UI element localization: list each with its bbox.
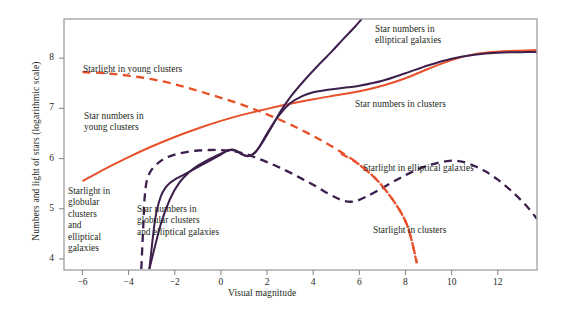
annotation-star-numbers-clusters: Star numbers in clusters [355,99,446,110]
x-tick-label: −4 [115,277,143,287]
y-axis-ticks [59,58,64,259]
x-tick-label: −6 [68,277,96,287]
y-tick-label: 5 [34,203,54,213]
y-tick-label: 6 [34,153,54,163]
annotation-starlight-elliptical-galaxies: Starlight in elliptical galaxies [363,163,474,174]
x-tick-label: 6 [345,277,373,287]
annotation-starlight-globular-clusters: Starlight in globular clusters and ellip… [68,186,110,254]
chart-figure: Visual magnitude Numbers and light of st… [0,0,563,323]
y-tick-label: 4 [34,253,54,263]
x-tick-label: 10 [438,277,466,287]
annotation-star-numbers-elliptical-galaxies: Star numbers in elliptical galaxies [375,24,441,47]
x-tick-label: 4 [299,277,327,287]
annotation-star-numbers-young-clusters: Star numbers in young clusters [84,111,144,134]
x-tick-label: 2 [253,277,281,287]
x-tick-label: 12 [484,277,512,287]
annotation-starlight-clusters: Starlight in clusters [373,225,446,236]
annotation-starlight-young-clusters: Starlight in young clusters [83,64,182,75]
x-axis-ticks [82,270,497,275]
annotation-star-numbers-globular-clusters: Star numbers in globular clusters and el… [137,204,219,238]
x-axis-title: Visual magnitude [228,288,296,298]
x-tick-label: 0 [207,277,235,287]
y-axis-title: Numbers and light of stars (logarithmic … [31,41,41,261]
x-tick-label: 8 [391,277,419,287]
y-tick-label: 7 [34,102,54,112]
chart-plot-area [0,0,563,323]
x-tick-label: −2 [161,277,189,287]
y-tick-label: 8 [34,52,54,62]
